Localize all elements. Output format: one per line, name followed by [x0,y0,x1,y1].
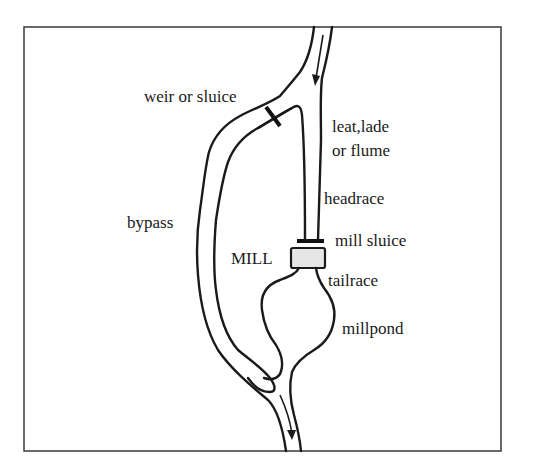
label-leat-2: or flume [332,140,390,162]
mill-building [291,248,325,268]
label-mill: MILL [231,248,273,270]
label-millpond: millpond [342,318,403,340]
label-tailrace: tailrace [328,270,378,292]
label-headrace: headrace [324,188,384,210]
label-leat-1: leat,lade [332,116,389,138]
mill-diagram-svg [0,0,534,475]
label-bypass: bypass [127,212,173,234]
diagram-frame [24,27,501,451]
diagram-canvas: weir or sluice leat,lade or flume headra… [0,0,534,475]
label-mill-sluice: mill sluice [335,230,406,252]
label-weir: weir or sluice [144,86,237,108]
